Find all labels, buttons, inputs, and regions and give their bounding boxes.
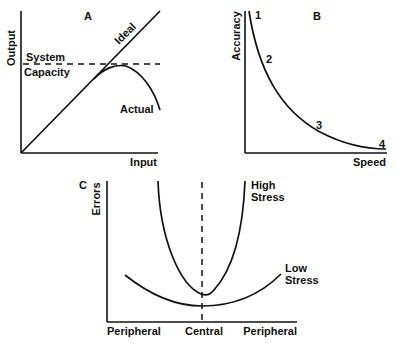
system-capacity-label-2: Capacity: [24, 66, 71, 78]
panel-a-ylabel: Output: [5, 30, 17, 66]
panel-c-title: C: [79, 179, 87, 191]
x-tick-peripheral-left: Peripheral: [107, 325, 161, 337]
low-stress-curve: [125, 274, 281, 306]
actual-label: Actual: [120, 103, 154, 115]
low-stress-label-2: Stress: [285, 274, 319, 286]
panel-b-title: B: [313, 10, 321, 22]
point-label-3: 3: [316, 119, 322, 131]
panel-c: C Errors High Stress Low Stress Peripher…: [79, 179, 319, 337]
point-label-2: 2: [266, 53, 272, 65]
panel-a: A Output Input System Capacity Ideal Act…: [5, 10, 160, 168]
point-label-4: 4: [379, 138, 386, 150]
high-stress-label-2: Stress: [251, 191, 285, 203]
panel-b-xlabel: Speed: [353, 156, 386, 168]
point-label-1: 1: [255, 9, 261, 21]
x-tick-peripheral-right: Peripheral: [243, 325, 297, 337]
ideal-label: Ideal: [112, 20, 138, 46]
ideal-curve: [21, 11, 160, 153]
panel-a-xlabel: Input: [130, 156, 157, 168]
panel-b-ylabel: Accuracy: [230, 10, 242, 60]
x-tick-central: Central: [185, 325, 223, 337]
figure: A Output Input System Capacity Ideal Act…: [0, 0, 397, 346]
system-capacity-label-1: System: [26, 51, 65, 63]
panel-a-title: A: [84, 10, 92, 22]
panel-c-ylabel: Errors: [90, 182, 102, 215]
panel-b: B Accuracy Speed 1 2 3 4: [230, 9, 387, 168]
high-stress-label-1: High: [251, 179, 276, 191]
low-stress-label-1: Low: [285, 262, 307, 274]
